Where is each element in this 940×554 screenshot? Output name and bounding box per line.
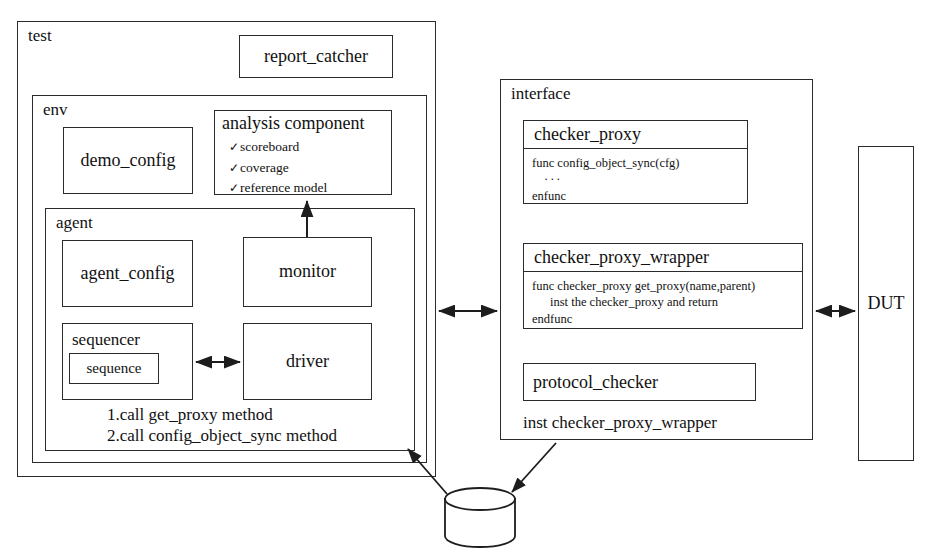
checker-proxy-body-ellipsis: ··· bbox=[532, 171, 747, 188]
analysis-component-item-label: reference model bbox=[240, 180, 327, 195]
checker-proxy-box[interactable]: checker_proxy func config_object_sync(cf… bbox=[523, 120, 748, 204]
check-icon: ✓ bbox=[229, 159, 240, 177]
dut-label: DUT bbox=[868, 294, 905, 314]
interface-to-config-db-arrow bbox=[512, 443, 556, 492]
analysis-component-item-label: scoreboard bbox=[240, 139, 299, 154]
sequencer-box[interactable]: sequencer sequence bbox=[62, 323, 193, 400]
monitor-box[interactable]: monitor bbox=[243, 237, 372, 307]
uvm-testbench-diagram: test report_catcher env demo_config anal… bbox=[0, 0, 940, 554]
analysis-component-box[interactable]: analysis component ✓scoreboard ✓coverage… bbox=[214, 110, 392, 195]
protocol-checker-box[interactable]: protocol_checker bbox=[523, 363, 756, 401]
checker-proxy-wrapper-body: func checker_proxy get_proxy(name,parent… bbox=[524, 272, 802, 333]
driver-box[interactable]: driver bbox=[243, 323, 372, 400]
agent-call-note-1: 1.call get_proxy method bbox=[107, 404, 273, 426]
env-label: env bbox=[43, 101, 68, 118]
checker-proxy-wrapper-box[interactable]: checker_proxy_wrapper func checker_proxy… bbox=[523, 243, 803, 329]
checker-proxy-body-line: func config_object_sync(cfg) bbox=[532, 155, 747, 172]
test-label: test bbox=[28, 27, 52, 44]
checker-proxy-wrapper-body-line: inst the checker_proxy and return bbox=[532, 294, 802, 311]
monitor-label: monitor bbox=[279, 262, 336, 282]
analysis-component-item-list: ✓scoreboard ✓coverage ✓reference model bbox=[229, 137, 327, 199]
sequencer-label: sequencer bbox=[72, 330, 140, 350]
checker-proxy-wrapper-header: checker_proxy_wrapper bbox=[524, 244, 802, 272]
config-db-label: config_db bbox=[445, 513, 515, 529]
check-icon: ✓ bbox=[229, 179, 240, 197]
demo-config-label: demo_config bbox=[81, 151, 176, 171]
interface-label: interface bbox=[511, 85, 570, 102]
check-icon: ✓ bbox=[229, 138, 240, 156]
analysis-component-item: ✓coverage bbox=[229, 158, 327, 179]
agent-call-note-2: 2.call config_object_sync method bbox=[107, 425, 337, 447]
checker-proxy-body-line: enfunc bbox=[532, 188, 747, 205]
checker-proxy-body: func config_object_sync(cfg) ··· enfunc bbox=[524, 149, 747, 210]
sequence-box[interactable]: sequence bbox=[69, 353, 159, 384]
analysis-component-item-label: coverage bbox=[240, 160, 289, 175]
analysis-component-label: analysis component bbox=[222, 113, 364, 134]
dut-box[interactable]: DUT bbox=[858, 146, 914, 461]
analysis-component-item: ✓reference model bbox=[229, 178, 327, 199]
report-catcher-box[interactable]: report_catcher bbox=[239, 35, 393, 78]
analysis-component-item: ✓scoreboard bbox=[229, 137, 327, 158]
agent-config-label: agent_config bbox=[81, 264, 175, 284]
protocol-checker-label: protocol_checker bbox=[533, 372, 658, 393]
driver-label: driver bbox=[286, 352, 329, 372]
checker-proxy-wrapper-body-line: endfunc bbox=[532, 311, 802, 328]
agent-label: agent bbox=[56, 214, 93, 231]
demo-config-box[interactable]: demo_config bbox=[63, 127, 193, 194]
agent-config-box[interactable]: agent_config bbox=[62, 240, 193, 307]
checker-proxy-wrapper-body-line: func checker_proxy get_proxy(name,parent… bbox=[532, 278, 802, 295]
report-catcher-label: report_catcher bbox=[264, 47, 368, 67]
interface-inst-note: inst checker_proxy_wrapper bbox=[523, 412, 717, 434]
sequence-label: sequence bbox=[87, 360, 142, 377]
checker-proxy-header: checker_proxy bbox=[524, 121, 747, 149]
